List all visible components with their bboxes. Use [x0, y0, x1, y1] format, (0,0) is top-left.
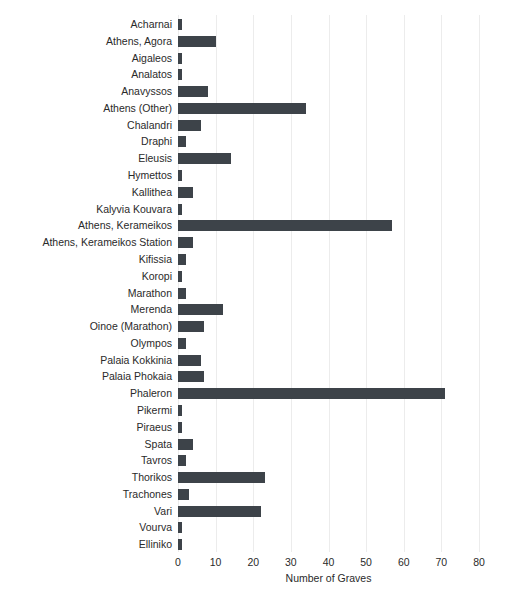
bar: [178, 136, 186, 147]
x-axis-tick-label: 40: [323, 556, 335, 568]
x-axis-tick-label: 50: [360, 556, 372, 568]
gridline: [479, 15, 480, 552]
x-axis-title: Number of Graves: [178, 572, 479, 584]
bar: [178, 539, 182, 550]
x-axis-tick-label: 70: [436, 556, 448, 568]
x-axis-tick-label: 60: [398, 556, 410, 568]
bar: [178, 288, 186, 299]
bar: [178, 103, 306, 114]
bar: [178, 153, 231, 164]
x-axis-tick-label: 20: [247, 556, 259, 568]
bar: [178, 506, 261, 517]
bar: [178, 422, 182, 433]
bar: [178, 204, 182, 215]
bar: [178, 388, 445, 399]
y-axis-labels: AcharnaiAthens, AgoraAigaleosAnalatosAna…: [0, 15, 172, 552]
bar: [178, 120, 201, 131]
x-axis-ticks: 01020304050607080: [178, 556, 479, 570]
x-axis-tick-label: 10: [210, 556, 222, 568]
bar: [178, 220, 392, 231]
bar-row: [178, 535, 479, 554]
bar: [178, 522, 182, 533]
bar: [178, 170, 182, 181]
bar: [178, 19, 182, 30]
bar: [178, 271, 182, 282]
bar: [178, 237, 193, 248]
plot-area: [178, 15, 479, 552]
bar: [178, 187, 193, 198]
bar: [178, 338, 186, 349]
bar: [178, 439, 193, 450]
bar: [178, 53, 182, 64]
bar: [178, 86, 208, 97]
bar: [178, 472, 265, 483]
bar: [178, 489, 189, 500]
bar: [178, 304, 223, 315]
bar-rows: [178, 15, 479, 552]
bar: [178, 405, 182, 416]
bar: [178, 69, 182, 80]
bar: [178, 36, 216, 47]
bar: [178, 455, 186, 466]
bar: [178, 321, 204, 332]
x-axis-tick-label: 80: [473, 556, 485, 568]
bar: [178, 254, 186, 265]
y-axis-label: Elliniko: [139, 535, 172, 554]
bar-chart: AcharnaiAthens, AgoraAigaleosAnalatosAna…: [0, 0, 505, 595]
x-axis-tick-label: 30: [285, 556, 297, 568]
x-axis-tick-label: 0: [175, 556, 181, 568]
bar: [178, 355, 201, 366]
bar: [178, 371, 204, 382]
